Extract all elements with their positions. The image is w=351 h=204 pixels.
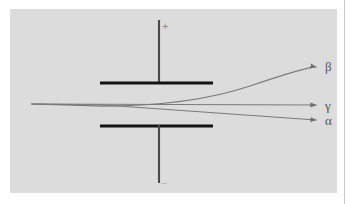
beta-ray-label: β [325, 60, 332, 73]
page-edge-rule [344, 0, 345, 204]
figure-root: β γ α + − [0, 0, 351, 204]
gamma-ray-label: γ [325, 99, 331, 112]
diagram-panel [10, 9, 337, 193]
negative-terminal-label: − [161, 178, 167, 189]
alpha-ray-label: α [325, 114, 332, 127]
positive-terminal-label: + [162, 21, 168, 32]
